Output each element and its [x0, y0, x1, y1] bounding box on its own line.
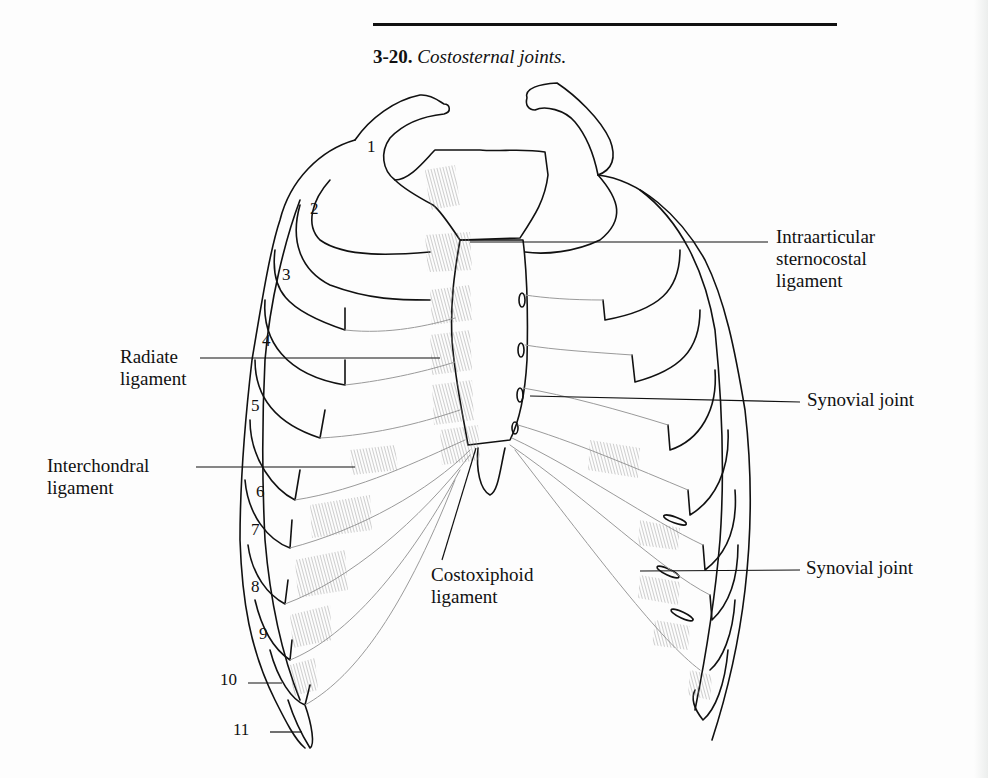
label-line: ligament: [776, 270, 875, 292]
label-line: Intraarticular: [776, 226, 875, 248]
synovial-upper-leader: [530, 396, 800, 402]
label-intraarticular-sternocostal-ligament: Intraarticular sternocostal ligament: [776, 226, 875, 292]
rib-number-4: 4: [262, 332, 271, 350]
right-rib-9: [710, 600, 735, 670]
label-line: ligament: [47, 477, 149, 499]
xiphoid: [478, 448, 506, 495]
label-line: Costoxiphoid: [431, 564, 533, 586]
left-rib-5: [255, 360, 325, 438]
right-rib-2: [525, 175, 617, 253]
label-line: Interchondral: [47, 455, 149, 477]
rib-number-2: 2: [310, 200, 319, 218]
left-rib-3: [274, 250, 345, 330]
right-rib-4: [632, 310, 700, 382]
rib-number-6: 6: [256, 483, 265, 501]
synovial-lower-leader: [640, 570, 800, 571]
label-synovial-joint-upper: Synovial joint: [807, 389, 914, 411]
label-interchondral-ligament: Interchondral ligament: [47, 455, 149, 499]
label-synovial-joint-lower: Synovial joint: [806, 557, 913, 579]
rib-number-7: 7: [251, 521, 260, 539]
right-rib-3: [603, 250, 680, 320]
right-clavicle-stub: [526, 83, 613, 175]
radiate-ligament-hatch: [425, 165, 460, 210]
rib-number-1: 1: [367, 138, 376, 156]
left-rib-11: [288, 700, 312, 748]
costoxiphoid-leader: [442, 448, 476, 560]
label-line: Radiate: [120, 346, 186, 368]
label-costoxiphoid-ligament: Costoxiphoid ligament: [431, 564, 533, 608]
rib-number-11: 11: [233, 721, 249, 739]
label-line: ligament: [431, 586, 533, 608]
rib-number-10: 10: [220, 671, 237, 689]
rib-number-5: 5: [251, 397, 260, 415]
right-rib-7: [703, 490, 735, 570]
label-line: ligament: [120, 368, 186, 390]
interchondral-ligament-hatch: [350, 445, 398, 475]
right-rib-5: [668, 370, 715, 450]
rib-number-8: 8: [251, 578, 260, 596]
label-line: sternocostal: [776, 248, 875, 270]
rib-number-9: 9: [259, 625, 268, 643]
rib-number-3: 3: [282, 266, 291, 284]
left-rib-2: [312, 180, 430, 254]
label-radiate-ligament: Radiate ligament: [120, 346, 186, 390]
manubrium: [395, 150, 548, 240]
